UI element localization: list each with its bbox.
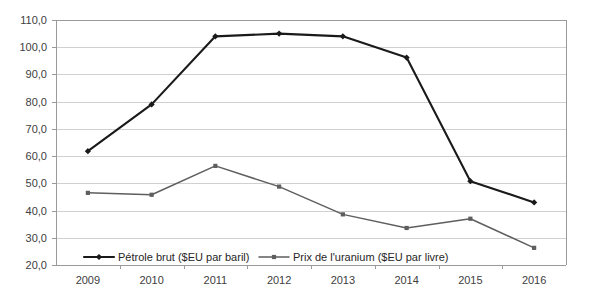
- line-chart: 110,0100,090,080,070,060,050,040,030,020…: [0, 0, 604, 300]
- y-tick-label: 40,0: [26, 205, 47, 217]
- data-point-oil: [531, 199, 537, 205]
- legend-item-oil: Pétrole brut ($EU par baril): [84, 251, 249, 263]
- legend-item-oil-label: Pétrole brut ($EU par baril): [118, 251, 249, 263]
- x-tick-label: 2015: [458, 274, 482, 286]
- y-tick-label: 70,0: [26, 123, 47, 135]
- data-point-uranium: [405, 226, 409, 230]
- legend: Pétrole brut ($EU par baril)Prix de l'ur…: [84, 251, 449, 263]
- gridlines-group: [56, 21, 566, 239]
- data-point-uranium: [341, 212, 345, 216]
- x-axis-ticks: 20092010201120122013201420152016: [76, 265, 547, 286]
- data-point-uranium: [86, 191, 90, 195]
- data-point-uranium: [150, 193, 154, 197]
- y-tick-label: 110,0: [20, 14, 47, 26]
- series-uranium-line: [88, 166, 534, 248]
- data-point-uranium: [277, 185, 281, 189]
- y-tick-label: 50,0: [26, 177, 47, 189]
- data-point-uranium: [213, 164, 217, 168]
- y-tick-label: 100,0: [19, 41, 47, 53]
- y-tick-label: 80,0: [26, 96, 47, 108]
- x-tick-label: 2014: [394, 274, 418, 286]
- legend-item-uranium: Prix de l'uranium ($EU par livre): [259, 251, 449, 263]
- axes-group: [56, 20, 567, 266]
- x-tick-label: 2012: [267, 274, 291, 286]
- data-point-uranium: [532, 246, 536, 250]
- x-tick-label: 2016: [522, 274, 546, 286]
- legend-item-uranium-label: Prix de l'uranium ($EU par livre): [293, 251, 449, 263]
- legend-item-uranium-swatch-marker: [272, 255, 276, 259]
- series-oil: [85, 31, 537, 206]
- chart-canvas: 110,0100,090,080,070,060,050,040,030,020…: [0, 0, 604, 300]
- x-tick-label: 2013: [331, 274, 355, 286]
- y-axis-ticks: 110,0100,090,080,070,060,050,040,030,020…: [19, 14, 56, 271]
- data-point-uranium: [468, 217, 472, 221]
- legend-item-oil-swatch-marker: [96, 254, 102, 260]
- x-tick-label: 2011: [204, 274, 228, 286]
- x-tick-label: 2009: [76, 274, 100, 286]
- y-tick-label: 30,0: [26, 232, 47, 244]
- y-tick-label: 60,0: [26, 150, 47, 162]
- y-tick-label: 90,0: [26, 68, 47, 80]
- x-tick-label: 2010: [139, 274, 163, 286]
- data-point-oil: [276, 31, 282, 37]
- data-point-oil: [340, 33, 346, 39]
- series-oil-line: [88, 34, 534, 203]
- y-tick-label: 20,0: [26, 259, 47, 271]
